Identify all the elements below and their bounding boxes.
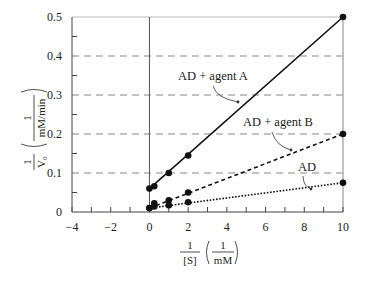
x-unit-numerator: 1 xyxy=(220,239,226,251)
arrow-head-icon xyxy=(310,188,313,191)
y-tick-label: 0.5 xyxy=(47,10,62,24)
data-point xyxy=(340,131,347,138)
annotation-arrow xyxy=(272,132,291,150)
x-tick-label: 0 xyxy=(146,220,152,234)
x-axis-label: 1 [S] 1 mM xyxy=(180,239,238,266)
arrow-head-icon xyxy=(237,101,240,104)
x-tick-label: 4 xyxy=(224,220,230,234)
y-label-denominator: V₀ xyxy=(35,156,47,168)
data-point xyxy=(185,152,192,159)
series-line xyxy=(149,183,343,208)
x-tick-label: 6 xyxy=(263,220,269,234)
y-tick-label: 0.2 xyxy=(47,127,62,141)
data-point xyxy=(340,14,347,21)
data-point xyxy=(165,170,172,177)
x-tick-label: 10 xyxy=(337,220,349,234)
data-point xyxy=(165,202,172,209)
lineweaver-burk-chart: −4−2024681000.10.20.30.40.5 AD + agent A… xyxy=(0,0,366,281)
arrow-head-icon xyxy=(290,149,293,152)
y-unit-numerator: 1 xyxy=(21,115,33,121)
y-unit-denominator: mM/min xyxy=(35,98,47,137)
x-tick-label: 8 xyxy=(301,220,307,234)
x-unit-denominator: mM xyxy=(214,254,233,266)
y-axis-label: 1 V₀ 1 mM/min xyxy=(21,90,47,171)
x-label-denominator: [S] xyxy=(183,254,196,266)
y-tick-label: 0.4 xyxy=(47,49,62,63)
x-tick-label: −2 xyxy=(104,220,117,234)
data-point xyxy=(151,203,158,210)
data-point xyxy=(340,179,347,186)
y-tick-label: 0.1 xyxy=(47,166,62,180)
x-label-numerator: 1 xyxy=(187,239,193,251)
annotation-label: AD + agent A xyxy=(178,69,248,83)
annotation-arrow xyxy=(303,176,311,189)
annotation-arrow xyxy=(213,86,238,102)
series-lines xyxy=(146,14,346,212)
data-point xyxy=(185,199,192,206)
x-tick-label: 2 xyxy=(185,220,191,234)
x-tick-label: −4 xyxy=(66,220,79,234)
y-tick-label: 0 xyxy=(56,205,62,219)
y-tick-label: 0.3 xyxy=(47,88,62,102)
annotation-label: AD + agent B xyxy=(243,115,313,129)
y-label-numerator: 1 xyxy=(21,159,33,165)
data-point xyxy=(185,189,192,196)
annotations: AD + agent AAD + agent BAD xyxy=(178,69,316,190)
annotation-label: AD xyxy=(298,160,316,174)
data-point xyxy=(151,183,158,190)
